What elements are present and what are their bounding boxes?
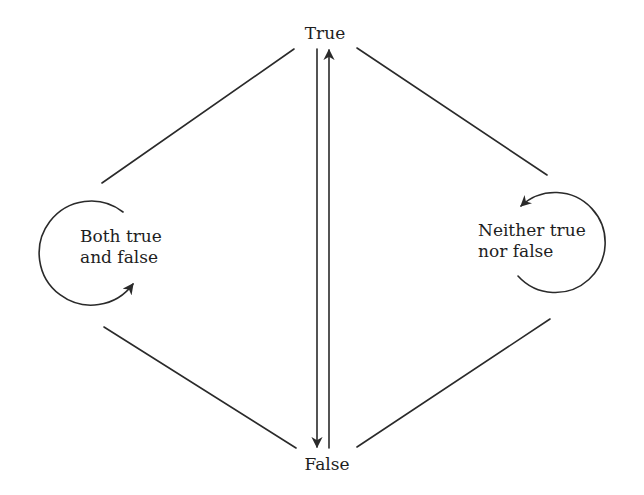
node-neither-label-line-1: Neither true (478, 220, 586, 240)
node-neither-label-line-2: nor false (478, 241, 553, 261)
edge-true-to-neither (357, 48, 547, 175)
node-false-label: False (305, 454, 350, 474)
node-neither-true-nor-false: Neither true nor false (478, 220, 586, 261)
node-both-label-line-1: Both true (80, 226, 162, 246)
node-true-label: True (305, 23, 345, 43)
edge-false-to-neither (357, 319, 550, 447)
node-both-true-and-false: Both true and false (80, 226, 162, 267)
truth-value-diagram: True False Both true and false Neither t… (0, 0, 644, 495)
node-both-label-line-2: and false (80, 247, 158, 267)
edge-both-to-true (102, 49, 294, 183)
edge-both-to-false (104, 327, 296, 448)
